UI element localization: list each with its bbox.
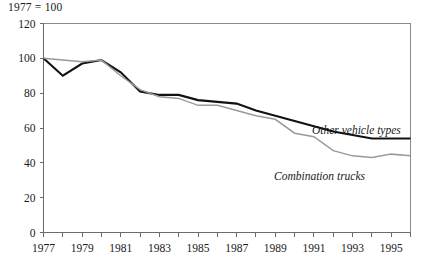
y-tick-label: 0	[30, 227, 36, 239]
x-tick-label: 1995	[380, 242, 403, 254]
x-tick-label: 1981	[109, 242, 132, 254]
y-axis-tick-labels: 020406080100120	[18, 18, 36, 239]
line-chart-plot: 020406080100120 197719791981198319851987…	[0, 0, 424, 275]
x-axis-tick-marks	[44, 233, 411, 237]
x-axis-tick-labels: 1977197919811983198519871989199119931995	[32, 242, 403, 254]
series-label-combination-trucks: Combination trucks	[274, 170, 366, 182]
x-tick-label: 1979	[71, 242, 94, 254]
series-label-other-vehicle-types: Other vehicle types	[312, 124, 401, 137]
y-tick-label: 120	[18, 18, 36, 30]
x-tick-label: 1977	[32, 242, 55, 254]
y-axis-tick-marks	[40, 24, 44, 233]
y-tick-label: 20	[24, 192, 36, 204]
y-tick-label: 40	[24, 157, 36, 169]
y-tick-label: 100	[18, 52, 36, 64]
data-series-group	[44, 58, 411, 157]
y-tick-label: 80	[24, 87, 36, 99]
series-line-combination-trucks	[44, 58, 411, 157]
x-tick-label: 1985	[187, 242, 210, 254]
chart-container: 1977 = 100 020406080100120 1977197919811…	[0, 0, 424, 275]
x-tick-label: 1987	[225, 242, 248, 254]
x-tick-label: 1993	[341, 242, 364, 254]
y-tick-label: 60	[24, 122, 36, 134]
x-tick-label: 1983	[148, 242, 171, 254]
x-tick-label: 1991	[302, 242, 325, 254]
x-tick-label: 1989	[264, 242, 287, 254]
